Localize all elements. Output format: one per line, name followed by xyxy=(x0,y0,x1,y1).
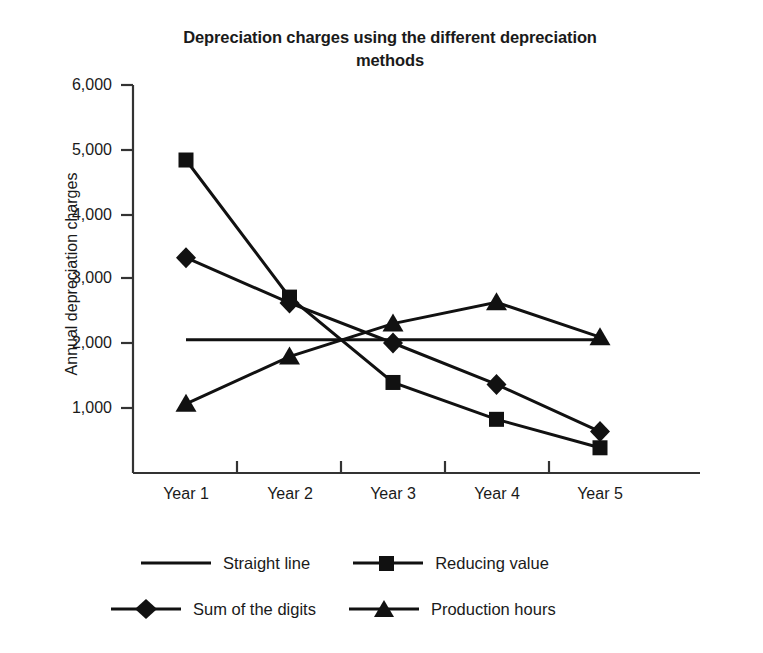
data-point-marker xyxy=(386,375,401,390)
legend-swatch-line-no-marker xyxy=(138,552,214,574)
data-point-marker xyxy=(489,412,504,427)
legend-item-production-hours[interactable]: Production hours xyxy=(346,598,556,620)
axes xyxy=(121,85,700,473)
data-point-marker xyxy=(486,292,507,310)
data-point-marker xyxy=(179,153,194,168)
legend-item-straight-line[interactable]: Straight line xyxy=(138,552,310,574)
series-sum-of-the-digits xyxy=(176,247,610,442)
legend-row-1: Straight line Reducing value xyxy=(133,540,693,586)
data-point-marker xyxy=(383,333,403,354)
data-point-marker xyxy=(593,440,608,455)
x-axis-ticks xyxy=(237,461,549,473)
depreciation-chart: Depreciation charges using the different… xyxy=(0,0,763,653)
data-point-marker xyxy=(176,247,196,268)
chart-legend: Straight line Reducing value Sum of the … xyxy=(133,540,693,632)
data-point-marker xyxy=(487,374,507,395)
legend-item-sum-of-the-digits[interactable]: Sum of the digits xyxy=(108,598,316,620)
legend-swatch-diamond-marker xyxy=(108,598,184,620)
data-point-marker xyxy=(590,421,610,442)
legend-row-2: Sum of the digits Production hours xyxy=(133,586,693,632)
legend-label-production-hours: Production hours xyxy=(431,600,556,619)
series-reducing-value xyxy=(179,153,608,456)
legend-item-reducing-value[interactable]: Reducing value xyxy=(350,552,549,574)
legend-swatch-square-marker xyxy=(350,552,426,574)
y-axis-ticks xyxy=(121,85,133,408)
legend-label-reducing-value: Reducing value xyxy=(435,554,549,573)
data-series-layer xyxy=(176,153,611,456)
legend-swatch-triangle-marker xyxy=(346,598,422,620)
legend-label-straight-line: Straight line xyxy=(223,554,310,573)
data-point-marker xyxy=(176,394,197,412)
legend-label-sum-of-the-digits: Sum of the digits xyxy=(193,600,316,619)
